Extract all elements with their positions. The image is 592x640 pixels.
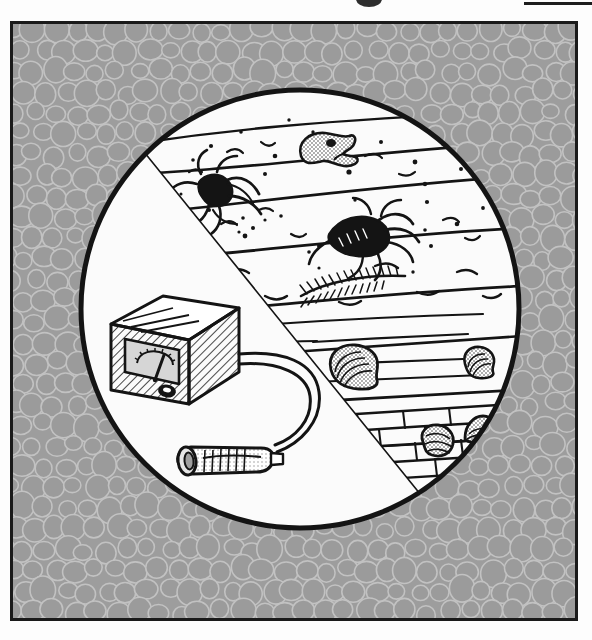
cut-off-glyph-top-center bbox=[356, 0, 382, 7]
large-ammonite-shell bbox=[330, 345, 377, 389]
illustration-vignette bbox=[13, 24, 578, 621]
animal-skull-fossil bbox=[300, 133, 357, 166]
small-ammonite-shell bbox=[464, 347, 494, 378]
buried-artifact-left bbox=[422, 425, 453, 456]
illustration-frame bbox=[10, 21, 578, 621]
cut-off-rule-top-right bbox=[524, 2, 592, 5]
page-canvas bbox=[0, 0, 592, 640]
probe-cable-connector bbox=[271, 453, 283, 465]
